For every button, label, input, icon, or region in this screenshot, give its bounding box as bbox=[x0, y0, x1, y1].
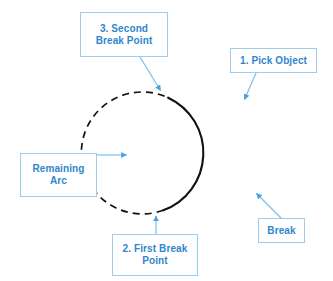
leader-line-break bbox=[257, 194, 282, 219]
callout-pick-object-label: 1. Pick Object bbox=[234, 55, 313, 67]
callout-first-break-point[interactable]: 2. First Break Point bbox=[112, 234, 198, 276]
callout-first-break-point-label: 2. First Break Point bbox=[116, 243, 194, 267]
callout-break-label: Break bbox=[262, 225, 301, 237]
callout-second-break-point-label: 3. Second Break Point bbox=[84, 23, 164, 47]
solid-remaining-arc bbox=[163, 98, 203, 211]
leader-line-second-break-point bbox=[140, 57, 161, 91]
diagram-canvas: 3. Second Break Point 1. Pick Object Rem… bbox=[0, 0, 333, 281]
callout-remaining-arc-label: Remaining Arc bbox=[24, 163, 93, 187]
callout-remaining-arc[interactable]: Remaining Arc bbox=[20, 153, 97, 197]
leader-line-pick-object bbox=[245, 73, 257, 100]
callout-second-break-point[interactable]: 3. Second Break Point bbox=[80, 12, 168, 57]
callout-break[interactable]: Break bbox=[258, 218, 305, 243]
callout-pick-object[interactable]: 1. Pick Object bbox=[230, 48, 317, 73]
